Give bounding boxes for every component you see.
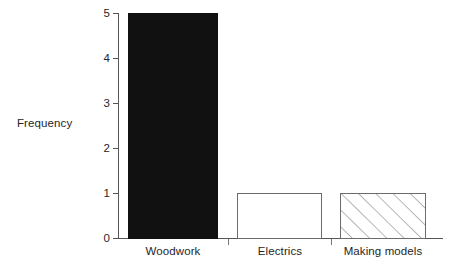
y-tick-mark-5 (113, 13, 118, 14)
y-tick-3: 3 (96, 103, 110, 104)
y-tick-mark-1 (113, 193, 118, 194)
y-tick-label-0: 0 (96, 232, 110, 244)
y-tick-4: 4 (96, 58, 110, 59)
y-tick-mark-0 (113, 238, 118, 239)
y-tick-label-5: 5 (96, 7, 110, 19)
bar-woodwork[interactable] (128, 13, 218, 239)
y-tick-label-3: 3 (96, 97, 110, 109)
y-tick-1: 1 (96, 193, 110, 194)
hatch-pattern-icon (341, 194, 425, 238)
y-tick-2: 2 (96, 148, 110, 149)
bar-making-models[interactable] (340, 193, 426, 239)
y-tick-label-4: 4 (96, 52, 110, 64)
y-axis-line (118, 13, 119, 239)
x-tick-mark-1 (228, 239, 229, 245)
y-tick-mark-2 (113, 148, 118, 149)
y-tick-label-2: 2 (96, 142, 110, 154)
x-category-label-making-models: Making models (344, 245, 423, 257)
y-tick-5: 5 (96, 13, 110, 14)
x-tick-mark-2 (331, 239, 332, 245)
y-tick-0: 0 (96, 238, 110, 239)
y-tick-label-1: 1 (96, 187, 110, 199)
y-axis-title: Frequency (17, 117, 72, 129)
y-tick-mark-3 (113, 103, 118, 104)
x-category-label-woodwork: Woodwork (146, 245, 201, 257)
bar-electrics[interactable] (237, 193, 322, 239)
y-tick-mark-4 (113, 58, 118, 59)
chart-canvas: Frequency 0 1 2 3 4 5 (0, 0, 457, 271)
x-category-label-electrics: Electrics (258, 245, 302, 257)
